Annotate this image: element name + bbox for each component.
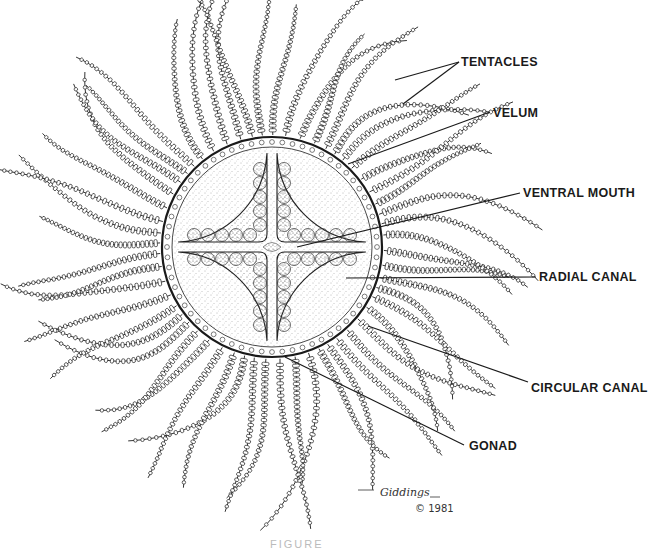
figure-caption-cutoff: FIGURE: [270, 538, 324, 550]
label-velum: VELUM: [493, 106, 538, 120]
label-radial-canal: RADIAL CANAL: [539, 270, 637, 284]
label-tentacles: TENTACLES: [461, 55, 538, 69]
label-ventral-mouth: VENTRAL MOUTH: [523, 186, 635, 200]
label-circular-canal: CIRCULAR CANAL: [531, 381, 648, 395]
bell: [162, 137, 382, 357]
label-gonad: GONAD: [469, 439, 517, 453]
artist-signature: Giddings: [380, 486, 430, 499]
copyright-notice: © 1981: [415, 503, 454, 514]
